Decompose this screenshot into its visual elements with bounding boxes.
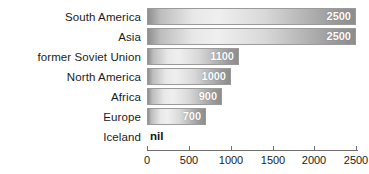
bar-value-south-america: 2500 xyxy=(327,9,351,24)
bar-south-america: 2500 xyxy=(147,8,356,25)
x-axis-tick-500 xyxy=(189,146,190,151)
category-label-iceland: Iceland xyxy=(0,129,141,146)
x-axis-label-2000: 2000 xyxy=(302,153,326,167)
bar-value-africa: 900 xyxy=(199,89,217,104)
bar-asia: 2500 xyxy=(147,28,356,45)
bar-europe: 700 xyxy=(147,108,206,125)
x-axis-label-1500: 1500 xyxy=(261,153,285,167)
bar-area-africa: 900 xyxy=(147,88,222,105)
bar-area-north-america: 1000 xyxy=(147,68,231,85)
x-axis-line xyxy=(147,150,358,151)
x-axis-tick-1000 xyxy=(231,146,232,151)
x-axis-tick-1500 xyxy=(273,146,274,151)
table-row: Iceland nil xyxy=(0,127,369,147)
x-axis-label-500: 500 xyxy=(180,153,198,167)
x-axis-tick-0 xyxy=(147,146,148,151)
table-row: North America 1000 xyxy=(0,67,369,87)
category-label-asia: Asia xyxy=(0,29,141,46)
bar-area-former-soviet-union: 1100 xyxy=(147,48,239,65)
table-row: former Soviet Union 1100 xyxy=(0,47,369,67)
bar-africa: 900 xyxy=(147,88,222,105)
bar-chart: South America 2500 Asia 2500 former Sovi… xyxy=(0,0,369,174)
category-label-former-soviet-union: former Soviet Union xyxy=(0,49,141,66)
bar-former-soviet-union: 1100 xyxy=(147,48,239,65)
x-axis-label-1000: 1000 xyxy=(219,153,243,167)
category-label-north-america: North America xyxy=(0,69,141,86)
x-axis-tick-2500 xyxy=(356,146,357,151)
bar-north-america: 1000 xyxy=(147,68,231,85)
bar-value-asia: 2500 xyxy=(327,29,351,44)
x-axis-label-2500: 2500 xyxy=(344,153,368,167)
table-row: South America 2500 xyxy=(0,7,369,27)
bar-value-iceland: nil xyxy=(150,128,163,145)
table-row: Asia 2500 xyxy=(0,27,369,47)
category-label-europe: Europe xyxy=(0,109,141,126)
category-label-south-america: South America xyxy=(0,9,141,26)
bar-value-north-america: 1000 xyxy=(202,69,226,84)
x-axis-label-0: 0 xyxy=(144,153,150,167)
category-label-africa: Africa xyxy=(0,89,141,106)
table-row: Africa 900 xyxy=(0,87,369,107)
bar-value-europe: 700 xyxy=(183,109,201,124)
x-axis-tick-2000 xyxy=(314,146,315,151)
bar-area-asia: 2500 xyxy=(147,28,356,45)
table-row: Europe 700 xyxy=(0,107,369,127)
bar-area-europe: 700 xyxy=(147,108,206,125)
bar-area-south-america: 2500 xyxy=(147,8,356,25)
bar-rows: South America 2500 Asia 2500 former Sovi… xyxy=(0,7,369,147)
bar-value-former-soviet-union: 1100 xyxy=(210,49,234,64)
